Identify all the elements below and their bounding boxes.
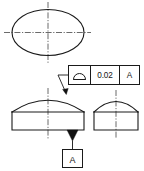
top-view-ellipse: [4, 2, 91, 63]
side-view-dome: [94, 90, 138, 138]
datum-triangle: [67, 130, 78, 141]
datum-feature-symbol[interactable]: A: [63, 130, 83, 168]
datum-feature-letter: A: [69, 155, 75, 165]
profile-of-a-surface-icon: [73, 74, 86, 80]
leader-arrowhead: [63, 88, 69, 94]
datum-reference-letter: A: [127, 71, 133, 80]
leader-line: [58, 75, 69, 95]
feature-control-frame[interactable]: 0.02 A: [69, 66, 140, 85]
drawing-canvas: 0.02 A: [0, 0, 144, 171]
engineering-drawing: 0.02 A: [0, 0, 144, 171]
tolerance-value: 0.02: [97, 71, 113, 80]
